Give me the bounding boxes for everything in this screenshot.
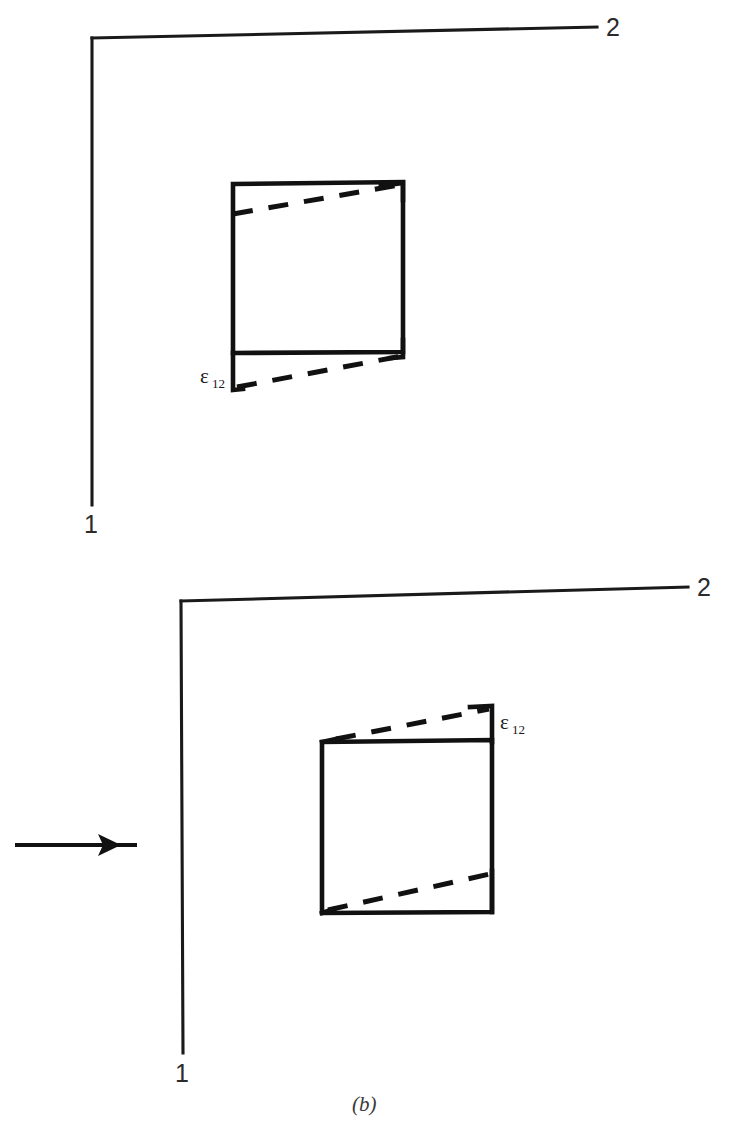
upper-horizontal-axis-2 [92, 27, 597, 38]
lower-element-square [322, 740, 492, 913]
upper-right-lower-tick-bracket [390, 340, 403, 358]
figure-caption: (b) [352, 1092, 377, 1116]
upper-panel-axes [92, 27, 597, 505]
shear-direction-arrow [15, 834, 137, 856]
lower-strain-subscript: 12 [512, 722, 525, 737]
upper-axis-label-2: 2 [606, 13, 620, 41]
figure-root: 2 1 ε 12 2 [0, 0, 729, 1142]
shear-strain-figure: 2 1 ε 12 2 [0, 0, 729, 1142]
upper-strain-label-group: ε 12 [200, 364, 225, 391]
upper-dashed-deformed-bottom-edge [237, 356, 402, 387]
lower-panel-axes [181, 587, 688, 1053]
lower-vertical-axis-1 [181, 601, 183, 1053]
lower-axis-label-2: 2 [697, 573, 711, 601]
upper-axis-label-1: 1 [84, 510, 98, 538]
upper-dashed-deformed-top-edge [233, 185, 399, 214]
upper-panel: 2 1 ε 12 [84, 13, 620, 538]
lower-panel: 2 1 ε 12 [15, 573, 711, 1087]
lower-strain-label-group: ε 12 [500, 710, 525, 737]
lower-dashed-deformed-bottom-edge [328, 874, 490, 910]
lower-dashed-deformed-top-edge [336, 709, 489, 739]
lower-upper-left-tick-bracket [322, 739, 336, 742]
lower-strain-symbol: ε [500, 710, 509, 734]
lower-axis-label-1: 1 [175, 1059, 189, 1087]
upper-element-square [233, 182, 403, 353]
upper-right-tick-bracket [381, 183, 403, 200]
upper-strain-subscript: 12 [212, 376, 225, 391]
upper-strain-symbol: ε [200, 364, 209, 388]
lower-horizontal-axis-2 [181, 587, 688, 601]
